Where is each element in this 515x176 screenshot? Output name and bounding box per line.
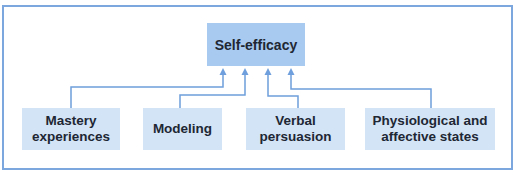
self-efficacy-label: Self-efficacy [215, 37, 297, 53]
arrowhead-icon [220, 68, 227, 75]
connector-physiological [291, 72, 431, 108]
physiological-affective-states-label: Physiological and affective states [369, 113, 491, 145]
arrowhead-icon [265, 68, 272, 75]
verbal-persuasion-box: Verbal persuasion [246, 108, 345, 150]
verbal-persuasion-label: Verbal persuasion [256, 113, 336, 145]
modeling-label: Modeling [153, 121, 212, 137]
connector-verbal [268, 72, 298, 108]
mastery-experiences-box: Mastery experiences [22, 108, 120, 150]
arrowhead-icon [288, 68, 295, 75]
mastery-experiences-label: Mastery experiences [26, 113, 116, 145]
modeling-box: Modeling [143, 108, 222, 150]
arrowhead-icon [242, 68, 249, 75]
self-efficacy-box: Self-efficacy [207, 23, 305, 66]
connector-modeling [180, 72, 245, 108]
physiological-affective-states-box: Physiological and affective states [365, 108, 495, 150]
connector-mastery [71, 72, 223, 108]
